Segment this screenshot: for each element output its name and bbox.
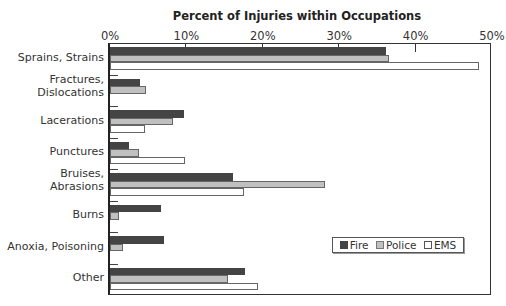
category-label: Other (0, 271, 104, 284)
legend-item-ems: EMS (424, 239, 456, 251)
bar-fire (110, 79, 140, 87)
y-tick-mark (110, 264, 118, 265)
bar-police (110, 149, 139, 157)
x-tick-label: 10% (174, 29, 200, 43)
category-label: Burns (0, 208, 104, 221)
bar-fire (110, 47, 386, 55)
plot-area (108, 43, 491, 295)
bar-ems (110, 283, 258, 291)
x-tick-label: 40% (403, 29, 429, 43)
bar-ems (110, 188, 244, 196)
bar-fire (110, 173, 233, 181)
legend: Fire Police EMS (332, 237, 464, 253)
y-tick-mark (110, 75, 118, 76)
y-tick-mark (110, 138, 118, 139)
y-tick-mark (110, 106, 118, 107)
x-tick-label: 20% (250, 29, 276, 43)
bar-police (110, 181, 325, 189)
x-tick-label: 50% (479, 29, 505, 43)
legend-label-police: Police (386, 239, 416, 251)
legend-item-fire: Fire (340, 239, 369, 251)
police-swatch-icon (376, 241, 384, 249)
fire-swatch-icon (340, 241, 348, 249)
bar-police (110, 244, 123, 252)
category-label: Bruises,Abrasions (0, 167, 104, 193)
y-tick-mark (110, 232, 118, 233)
bar-police (110, 212, 119, 220)
legend-item-police: Police (376, 239, 416, 251)
y-tick-mark (110, 201, 118, 202)
ems-swatch-icon (424, 241, 432, 249)
bar-police (110, 118, 173, 126)
legend-label-ems: EMS (434, 239, 456, 251)
category-label: Lacerations (0, 114, 104, 127)
y-tick-mark (110, 169, 118, 170)
chart-title: Percent of Injuries within Occupations (97, 9, 497, 23)
x-tick-label: 0% (101, 29, 119, 43)
legend-label-fire: Fire (350, 239, 369, 251)
bar-police (110, 275, 228, 283)
bar-fire (110, 205, 161, 213)
bar-fire (110, 110, 184, 118)
bar-ems (110, 62, 479, 70)
bar-fire (110, 142, 129, 150)
bar-ems (110, 157, 185, 165)
category-label: Sprains, Strains (0, 51, 104, 64)
category-label: Fractures,Dislocations (0, 73, 104, 99)
bar-police (110, 55, 389, 63)
category-label: Punctures (0, 145, 104, 158)
category-label: Anoxia, Poisoning (0, 240, 104, 253)
bar-ems (110, 125, 145, 133)
x-tick-mark (415, 44, 416, 52)
bar-police (110, 86, 146, 94)
bar-fire (110, 236, 164, 244)
bar-fire (110, 268, 245, 276)
x-tick-label: 30% (326, 29, 352, 43)
